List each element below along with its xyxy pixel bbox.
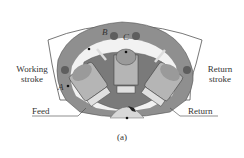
figure-caption: (a) bbox=[112, 132, 132, 142]
point-c-label: C bbox=[123, 32, 129, 42]
return-stroke-label: Return stroke bbox=[198, 64, 242, 84]
hole bbox=[110, 32, 118, 40]
working-text: Working bbox=[10, 64, 54, 74]
point-b-label: B bbox=[102, 27, 108, 37]
stroke-text: stroke bbox=[10, 74, 54, 84]
return-label: Return bbox=[188, 106, 213, 116]
feed-label: Feed bbox=[32, 106, 50, 116]
mechanism-diagram: Working stroke Return stroke Feed Return… bbox=[0, 0, 244, 158]
point-a-label: A bbox=[58, 82, 64, 92]
working-stroke-label: Working stroke bbox=[10, 64, 54, 84]
center-piston bbox=[114, 49, 138, 93]
hole bbox=[61, 66, 69, 74]
hole bbox=[183, 66, 191, 74]
return-text: Return bbox=[198, 64, 242, 74]
stroke-text: stroke bbox=[198, 74, 242, 84]
hole bbox=[132, 32, 140, 40]
